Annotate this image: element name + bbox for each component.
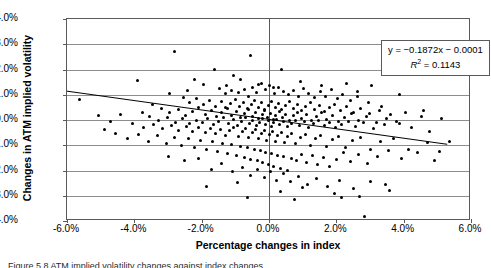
y-axis-tick-label: -3.0% xyxy=(0,190,18,200)
x-axis-tick-label: 4.0% xyxy=(373,224,433,234)
y-axis-tick-label: 0.0% xyxy=(0,114,18,124)
x-axis-tick-label: -2.0% xyxy=(171,224,231,234)
x-axis-tick-label: 6.0% xyxy=(440,224,491,234)
y-axis-tick-label: -1.0% xyxy=(0,139,18,149)
r-squared-value: = 0.1143 xyxy=(421,59,460,70)
x-axis-tick-label: 0.0% xyxy=(238,224,298,234)
y-axis-title: Changes in ATM implied volatility xyxy=(21,3,33,233)
y-axis-tick-label: 4.0% xyxy=(0,13,18,23)
figure-container: Changes in ATM implied volatility 4.0%3.… xyxy=(0,0,491,268)
x-axis-tick-label: -6.0% xyxy=(36,224,96,234)
r-squared-line: R2 = 0.1143 xyxy=(388,56,483,71)
plot-area: y = −0.1872x − 0.0001 R2 = 0.1143 xyxy=(66,18,470,220)
x-axis-tick-label: 2.0% xyxy=(305,224,365,234)
x-axis-title: Percentage changes in index xyxy=(66,239,470,251)
regression-equation: y = −0.1872x − 0.0001 xyxy=(388,44,483,56)
y-axis-tick-label: 3.0% xyxy=(0,38,18,48)
figure-caption: Figure 5.8 ATM implied volatility change… xyxy=(8,261,478,268)
x-axis-tick-label: -4.0% xyxy=(103,224,163,234)
y-axis-tick-label: -2.0% xyxy=(0,165,18,175)
y-axis-tick-label: 2.0% xyxy=(0,64,18,74)
y-axis-tick-label: 1.0% xyxy=(0,89,18,99)
y-axis-tick-label: -4.0% xyxy=(0,215,18,225)
regression-equation-box: y = −0.1872x − 0.0001 R2 = 0.1143 xyxy=(381,40,490,76)
